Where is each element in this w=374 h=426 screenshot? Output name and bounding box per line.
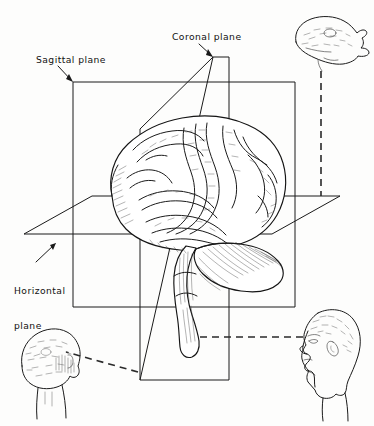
coronal-arrowhead bbox=[206, 49, 213, 57]
sagittal-plane-label: Sagittal plane bbox=[36, 54, 106, 66]
head-superior-hair-strokes bbox=[302, 28, 352, 46]
horizontal-plane-label-line1: Horizontal bbox=[14, 285, 65, 297]
leader-horizontal bbox=[36, 243, 56, 262]
head-lateral-hair-strokes bbox=[311, 316, 353, 352]
head-lateral-brow bbox=[308, 335, 320, 337]
head-posterior-neck-right bbox=[62, 385, 66, 418]
head-posterior-neck-left bbox=[37, 388, 38, 419]
head-superior-jaw-detail bbox=[324, 58, 338, 60]
head-lateral-outline bbox=[302, 310, 361, 399]
head-lateral-neck-back bbox=[345, 393, 348, 421]
horizontal-plane-label-line2: plane bbox=[14, 320, 65, 332]
horizontal-arrowhead bbox=[50, 243, 56, 250]
brain-planes-figure: Sagittal plane Coronal plane Horizontal … bbox=[0, 0, 374, 426]
head-superior-outline bbox=[296, 17, 369, 65]
head-lateral-view bbox=[300, 310, 360, 421]
leader-coronal bbox=[199, 44, 213, 57]
connector-coronal-to-posterior-head bbox=[66, 352, 138, 372]
horizontal-plane-label: Horizontal plane bbox=[14, 262, 65, 354]
head-lateral-ear-detail bbox=[331, 346, 334, 352]
head-lateral-neck bbox=[322, 398, 323, 421]
head-superior-brow bbox=[306, 48, 331, 52]
head-lateral-eye bbox=[309, 340, 318, 344]
head-lateral-ear bbox=[327, 341, 338, 356]
head-superior-view bbox=[296, 17, 369, 71]
leader-sagittal bbox=[58, 66, 73, 82]
coronal-plane-label: Coronal plane bbox=[172, 31, 242, 43]
head-posterior-ear-left bbox=[68, 355, 73, 368]
head-superior-nose bbox=[318, 60, 322, 71]
head-lateral-lips bbox=[304, 359, 312, 360]
